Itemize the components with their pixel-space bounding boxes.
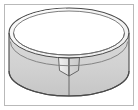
figure-container: Cut cylindrical band A three-dimensional…	[0, 0, 138, 110]
band-illustration	[0, 0, 138, 110]
